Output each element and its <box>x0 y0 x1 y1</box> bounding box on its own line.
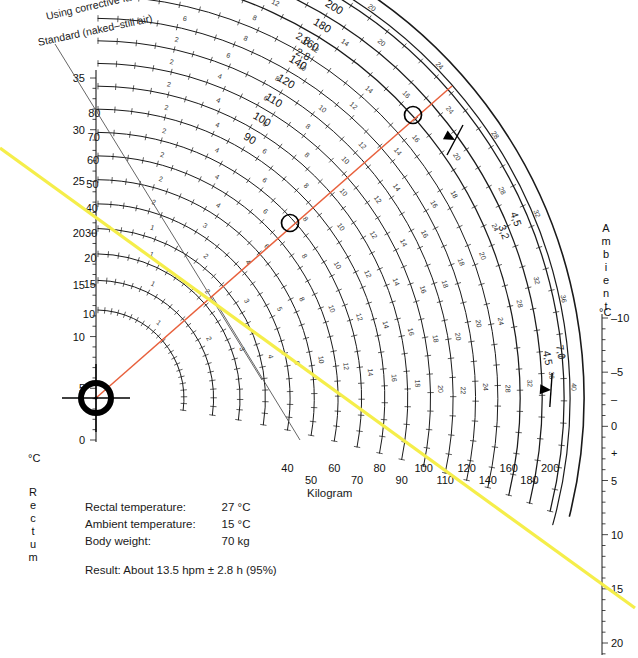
ambient-axis: –10–5–0+5101520 <box>602 312 629 655</box>
hour-tick-label: 6 <box>182 15 187 23</box>
hour-tick-label: 1 <box>155 319 163 327</box>
hour-tick-label: 6 <box>187 0 192 1</box>
rectum-tick-label: 10 <box>73 331 85 343</box>
rectum-tick-label: 25 <box>73 175 85 187</box>
weight-curve-left-label: 30 <box>85 227 97 239</box>
kilogram-tick-label: 100 <box>414 462 432 474</box>
hour-tick-label: 20 <box>474 319 482 328</box>
hour-tick-label: 40 <box>570 383 577 391</box>
hour-tick-label: 6 <box>261 147 268 155</box>
hour-tick-label: 32 <box>526 379 533 387</box>
hour-tick-label: 28 <box>490 130 500 140</box>
hour-tick-label: 14 <box>392 277 401 287</box>
weight-curve-hour-labels: 1101215123201234302345640402468105050246… <box>83 0 578 486</box>
hour-tick-label: 8 <box>302 182 310 190</box>
hour-tick-label: 12 <box>342 362 350 371</box>
case-row-value: 70 kg <box>196 533 251 550</box>
rectum-title-letter: c <box>26 512 40 525</box>
rectum-title-letter: R <box>26 486 40 499</box>
hour-tick-label: 4 <box>215 96 221 104</box>
hour-tick-label: 6 <box>261 176 268 184</box>
hour-tick-label: 14 <box>340 37 350 47</box>
hour-tick-label: 8 <box>252 14 258 22</box>
weight-curve-hour-ticks <box>98 0 567 512</box>
hour-tick-label: 24 <box>434 60 445 71</box>
hour-tick-label: 2 <box>202 252 209 260</box>
case-info-block: Rectal temperature: 27 °C Ambient temper… <box>85 499 250 550</box>
hour-tick-label: 28 <box>504 385 511 393</box>
rectum-title-letter: u <box>26 538 40 551</box>
hour-tick-label: 12 <box>369 230 379 240</box>
hour-tick-label: 8 <box>303 151 311 159</box>
weight-curve-left-label: 70 <box>88 131 100 143</box>
kilogram-tick-label: 90 <box>396 474 408 486</box>
weight-curve-top-label: 90 <box>242 130 259 147</box>
hour-tick-label: 4 <box>214 146 221 154</box>
upper-confidence-arrow <box>437 120 463 155</box>
hour-tick-label: 2 <box>205 335 213 342</box>
hour-tick-label: 16 <box>420 229 430 239</box>
hour-tick-label: 18 <box>457 257 466 267</box>
hour-tick-label: 14 <box>367 368 375 377</box>
weight-curve-left-label: 60 <box>87 154 99 166</box>
case-row-label: Ambient temperature: <box>85 516 196 533</box>
kilogram-tick-label: 120 <box>457 462 475 474</box>
hour-tick-label: 16 <box>411 133 421 144</box>
kilogram-tick-label: 60 <box>328 462 340 474</box>
hour-tick-label: 3 <box>243 297 251 304</box>
hour-tick-label: 10 <box>333 260 343 270</box>
case-result-text: Result: About 13.5 hpm ± 2.8 h (95%) <box>85 564 277 576</box>
kilogram-tick-label: 140 <box>479 474 497 486</box>
hour-tick-label: 6 <box>225 51 231 59</box>
kilogram-tick-label: 160 <box>500 462 518 474</box>
hour-tick-label: 8 <box>243 34 249 42</box>
hour-tick-label: 10 <box>338 187 348 198</box>
hour-tick-label: 14 <box>364 84 375 94</box>
hour-tick-label: 14 <box>399 238 409 248</box>
kilogram-tick-label: 70 <box>351 474 363 486</box>
case-row: Ambient temperature: 15 °C <box>85 516 250 533</box>
hour-tick-label: 20 <box>478 251 487 261</box>
ambient-tick-label: – <box>611 393 618 405</box>
hour-tick-label: 2 <box>164 104 170 112</box>
hour-tick-label: 2 <box>159 151 165 159</box>
hour-tick-label: 1 <box>150 280 157 288</box>
hour-tick-label: 12 <box>355 312 364 322</box>
corrective-factor-arcs <box>113 0 584 525</box>
hour-tick-label: 28 <box>497 185 507 195</box>
hour-tick-label: 18 <box>441 279 450 289</box>
ambient-title-letter: m <box>599 235 613 248</box>
case-row: Body weight: 70 kg <box>85 533 250 550</box>
hour-tick-label: 22 <box>460 387 467 395</box>
ambient-tick-label: 10 <box>611 529 623 541</box>
hour-tick-label: 3 <box>202 221 209 229</box>
hour-tick-label: 20 <box>454 332 462 341</box>
ambient-axis-title: A m b i e n t <box>599 222 613 313</box>
rectum-title-letter: e <box>26 499 40 512</box>
kilogram-tick-label: 180 <box>520 474 538 486</box>
kilogram-tick-label: 40 <box>281 462 293 474</box>
ambient-title-letter: b <box>599 248 613 261</box>
hour-tick-label: 8 <box>301 252 309 259</box>
kilogram-axis-caption: Kilogram <box>307 487 352 499</box>
kilogram-tick-label: 50 <box>305 474 317 486</box>
rectum-tick-label: 20 <box>73 227 85 239</box>
ambient-tick-label: –10 <box>611 312 629 324</box>
hour-tick-label: 16 <box>407 327 415 336</box>
hour-tick-label: 2 <box>161 127 167 135</box>
rectum-unit-label: °C <box>28 452 40 464</box>
hour-tick-label: 2 <box>169 58 174 66</box>
origin-dot <box>94 396 97 399</box>
hour-tick-label: 6 <box>262 207 270 215</box>
hour-tick-label: 2 <box>166 81 171 89</box>
rectum-tick-label: 0 <box>79 434 85 446</box>
hour-tick-label: 5 <box>276 306 284 313</box>
nomogram-figure: 1101215123201234302345640402468105050246… <box>0 0 638 658</box>
hour-tick-label: 12 <box>363 269 373 279</box>
ambient-tick-label: + <box>611 447 617 459</box>
hour-tick-label: 2 <box>158 175 164 183</box>
hour-tick-label: 18 <box>449 189 459 199</box>
hour-tick-label: 10 <box>327 304 336 314</box>
case-row: Rectal temperature: 27 °C <box>85 499 250 516</box>
hour-tick-label: 8 <box>298 296 306 303</box>
